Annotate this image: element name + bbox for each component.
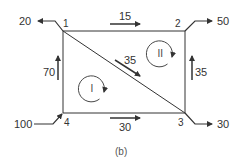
outflow-arrow-node3: [185, 113, 212, 124]
node-4-label: 4: [64, 117, 70, 128]
inflow-node4-value: 100: [14, 118, 32, 130]
inflow-arrow-node4: [34, 114, 62, 124]
outflow-arrow-node1: [38, 21, 63, 31]
pipe-network-diagram: 1 2 3 4 20 50 30 100 15 70 35 35 30 I II…: [0, 0, 243, 166]
flow-4-1-value: 70: [43, 66, 55, 78]
outflow-node1-value: 20: [19, 15, 31, 27]
outflow-node3-value: 30: [217, 118, 229, 130]
loop-I-label: I: [91, 83, 94, 94]
outflow-arrow-node2: [185, 21, 212, 31]
flow-4-3-value: 30: [119, 121, 131, 133]
figure-caption: (b): [115, 146, 127, 157]
flow-1-3-value: 35: [124, 54, 136, 66]
node-1-label: 1: [63, 18, 69, 29]
flow-3-2-value: 35: [195, 66, 207, 78]
loop-II-label: II: [158, 48, 164, 59]
node-3-label: 3: [178, 117, 184, 128]
node-2-label: 2: [175, 18, 181, 29]
outflow-node2-value: 50: [217, 15, 229, 27]
flow-1-2-value: 15: [119, 10, 131, 22]
